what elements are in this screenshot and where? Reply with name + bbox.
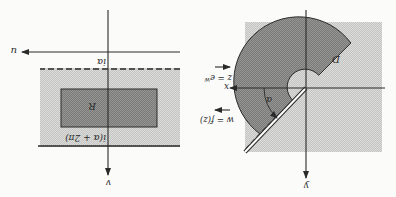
region-R-label: R [88, 101, 97, 112]
y-axis-label: y [303, 181, 310, 191]
u-axis-label: u [11, 46, 17, 57]
region-R [61, 89, 157, 127]
z-plane-panel: α x y D [224, 10, 385, 191]
mapping-arrows: z = ew w = f(z) [200, 67, 234, 125]
conformal-map-figure: u v iα i(α + 2π) R z = ew w = f(z) α [0, 0, 396, 197]
x-axis-label: x [224, 82, 229, 92]
angle-label: α [266, 95, 272, 105]
w-plane-panel: u v iα i(α + 2π) R [11, 10, 180, 188]
figure-svg: u v iα i(α + 2π) R z = ew w = f(z) α [0, 0, 396, 197]
upper-line-label: iα [97, 57, 106, 67]
inverse-map-label: w = f(z) [200, 115, 234, 125]
region-D-label: D [332, 54, 341, 65]
lower-line-label: i(α + 2π) [65, 133, 106, 143]
v-axis-label: v [106, 178, 111, 188]
